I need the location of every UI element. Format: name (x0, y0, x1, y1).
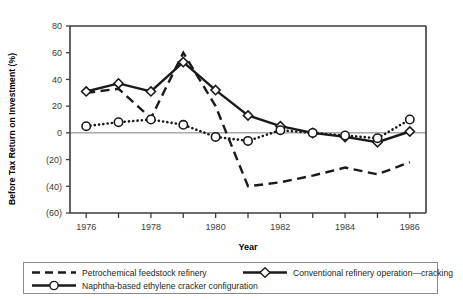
legend-swatch-dashed (31, 267, 77, 278)
data-series-layer (82, 53, 415, 187)
y-axis-ticks: 806040200(20)(40)(60) (46, 21, 70, 218)
y-tick-label: 0 (57, 128, 62, 138)
y-axis-title: Before Tax Return on Investment (%) (7, 53, 17, 205)
series-line (86, 62, 410, 142)
x-axis-title: Year (238, 242, 258, 252)
x-tick-label: 1982 (270, 222, 290, 232)
x-tick-label: 1980 (206, 222, 226, 232)
x-tick-label: 1984 (335, 222, 355, 232)
data-point-marker (309, 129, 317, 137)
legend-item-petrochemical: Petrochemical feedstock refinery (31, 267, 207, 278)
chart-legend: Petrochemical feedstock refinery Convent… (23, 262, 438, 294)
legend-swatch-solid-diamond (242, 267, 288, 278)
legend-label-petrochemical: Petrochemical feedstock refinery (82, 268, 207, 278)
legend-label-conventional: Conventional refinery operation—cracking (293, 268, 453, 278)
data-point-marker (82, 122, 90, 130)
roi-line-chart: Before Tax Return on Investment (%) Year… (0, 0, 463, 300)
data-point-marker (82, 87, 91, 96)
data-point-marker (211, 133, 219, 141)
data-point-marker (406, 115, 414, 123)
x-tick-label: 1976 (76, 222, 96, 232)
x-axis-ticks: 197619781980198219841986 (76, 213, 420, 232)
legend-item-naphtha: Naphtha-based ethylene cracker configura… (31, 280, 258, 291)
data-point-marker (114, 118, 122, 126)
legend-item-conventional: Conventional refinery operation—cracking (242, 267, 453, 278)
data-point-marker (179, 121, 187, 129)
legend-swatch-solid-circle (31, 280, 77, 291)
data-point-marker (341, 131, 349, 139)
x-tick-label: 1978 (141, 222, 161, 232)
data-point-marker (114, 79, 123, 88)
x-tick-label: 1986 (400, 222, 420, 232)
legend-label-naphtha: Naphtha-based ethylene cracker configura… (82, 281, 258, 291)
data-point-marker (276, 126, 284, 134)
data-point-marker (244, 137, 252, 145)
data-point-marker (373, 134, 381, 142)
y-tick-label: (40) (46, 182, 62, 192)
data-point-marker (147, 115, 155, 123)
y-tick-label: (20) (46, 155, 62, 165)
y-tick-label: 60 (52, 48, 62, 58)
chart-figure: Before Tax Return on Investment (%) Year… (0, 0, 463, 300)
y-tick-label: 40 (52, 75, 62, 85)
data-point-marker (405, 127, 414, 136)
y-tick-label: (60) (46, 208, 62, 218)
y-tick-label: 80 (52, 21, 62, 31)
y-tick-label: 20 (52, 101, 62, 111)
